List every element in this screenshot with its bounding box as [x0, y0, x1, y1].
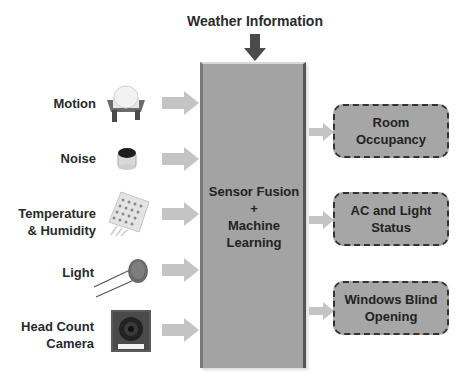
sensor-label-line: & Humidity: [0, 222, 96, 239]
sensor-label-temperature-humidity: Temperature & Humidity: [0, 205, 96, 239]
sensor-label-head-count-camera: Head Count Camera: [0, 318, 94, 352]
output-room-occupancy: Room Occupancy: [333, 104, 449, 158]
sensor-fusion-label: Sensor Fusion + Machine Learning: [200, 183, 308, 251]
input-arrow-icon: [162, 202, 200, 226]
output-label-line: Windows Blind: [344, 291, 437, 308]
sensor-label-line: Light: [0, 264, 94, 281]
input-arrow-icon: [162, 318, 200, 342]
down-arrow-icon: [244, 34, 266, 62]
output-label-line: Status: [351, 219, 432, 236]
microphone-icon: [116, 145, 138, 171]
sensor-label-light: Light: [0, 264, 94, 281]
camera-module-icon: [110, 309, 152, 353]
sensor-label-line: Motion: [0, 95, 96, 112]
output-label-line: Room: [356, 114, 426, 131]
pir-motion-sensor-icon: [103, 84, 149, 124]
sensor-label-line: Head Count: [0, 318, 94, 335]
sensor-label-motion: Motion: [0, 95, 96, 112]
output-ac-light-status: AC and Light Status: [333, 192, 449, 246]
input-arrow-icon: [162, 258, 200, 282]
main-line-1: Sensor Fusion: [200, 183, 308, 200]
output-arrow-icon: [309, 211, 335, 229]
input-arrow-icon: [162, 91, 200, 115]
main-line-2: +: [200, 200, 308, 217]
sensor-label-line: Camera: [0, 335, 94, 352]
weather-information-label: Weather Information: [150, 13, 360, 29]
main-line-4: Learning: [200, 234, 308, 251]
sensor-label-line: Temperature: [0, 205, 96, 222]
sensor-label-noise: Noise: [0, 150, 96, 167]
dht-sensor-icon: [103, 188, 153, 236]
output-arrow-icon: [309, 123, 335, 141]
output-label-line: Occupancy: [356, 131, 426, 148]
output-windows-blind-opening: Windows Blind Opening: [333, 281, 449, 335]
output-label-line: Opening: [344, 308, 437, 325]
sensor-label-line: Noise: [0, 150, 96, 167]
main-line-3: Machine: [200, 217, 308, 234]
output-arrow-icon: [309, 302, 335, 320]
input-arrow-icon: [162, 147, 200, 171]
photoresistor-icon: [90, 254, 154, 298]
output-label-line: AC and Light: [351, 202, 432, 219]
